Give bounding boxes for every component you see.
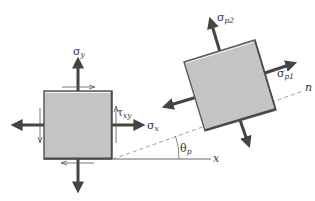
element-square <box>44 91 112 159</box>
n-axis-label: n <box>305 81 312 94</box>
theta-p-arc <box>176 136 180 159</box>
sigma-p1-label: σp1 <box>277 67 294 81</box>
principal-element-square <box>184 40 276 131</box>
principal-stress-element: σp2 σp1 <box>167 11 294 143</box>
tau-xy-label: τxy <box>117 106 132 120</box>
sigma-x-label: σx <box>147 119 160 133</box>
stress-transformation-diagram: σy σx τxy x n θp σp2 σp1 <box>0 0 315 201</box>
original-stress-element: σy σx τxy <box>16 45 160 188</box>
sigma-p2-label: σp2 <box>217 11 234 25</box>
sigma-p2-bottom-arrow <box>240 120 248 143</box>
x-axis-label: x <box>213 152 220 165</box>
sigma-p1-left-arrow <box>167 97 197 106</box>
sigma-p2-arrow <box>211 22 220 52</box>
sigma-y-label: σy <box>73 45 86 59</box>
theta-p-label: θp <box>180 142 192 156</box>
